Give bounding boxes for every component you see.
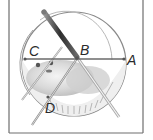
hamster-eye [36,63,40,67]
label-a: A [127,53,136,67]
label-b: B [80,43,89,57]
label-c: C [29,44,39,58]
dark-bar-cap [41,9,46,14]
point-b [75,56,79,60]
point-a [122,57,125,60]
hamster-wheel-diagram [0,0,153,140]
hamster-group [22,60,126,116]
hamster-nose [46,70,52,73]
point-c [23,57,26,60]
point-d [46,95,49,98]
label-d: D [45,101,55,115]
